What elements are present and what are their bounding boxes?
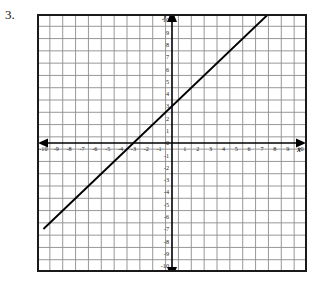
x-tick-label: 7	[260, 145, 263, 152]
y-tick-label: -7	[164, 225, 169, 232]
y-tick-label: -6	[164, 213, 169, 220]
x-tick-label: -6	[92, 145, 97, 152]
x-tick-label: -1	[157, 145, 162, 152]
y-tick-label: 1	[166, 127, 169, 134]
y-tick-label: -8	[164, 238, 169, 245]
x-tick-label: 4	[222, 145, 225, 152]
y-tick-label: -4	[164, 188, 169, 195]
x-tick-label: 8	[273, 145, 276, 152]
y-tick-label: -9	[164, 250, 169, 257]
y-tick-label: 2	[166, 115, 169, 122]
y-tick-label: -3	[164, 176, 169, 183]
y-tick-label: -10	[161, 262, 169, 269]
x-tick-label: 6	[248, 145, 251, 152]
x-tick-label: -5	[105, 145, 110, 152]
x-tick-label: -2	[144, 145, 149, 152]
coordinate-grid: -10-9-8-7-6-5-4-3-2-112345678910 1098765…	[37, 14, 307, 272]
graph-figure: 3. -10-9-8-7-6-5-4-3-2-112345678910 1098…	[0, 0, 325, 288]
y-tick-label: 9	[166, 29, 169, 36]
y-tick-label: 0	[166, 139, 169, 146]
x-tick-label: -9	[54, 145, 59, 152]
problem-number: 3.	[5, 8, 15, 21]
y-tick-label: -5	[164, 201, 169, 208]
x-tick-label: 3	[209, 145, 212, 152]
x-tick-label: 1	[183, 145, 186, 152]
x-tick-label: 5	[235, 145, 238, 152]
x-tick-label: -4	[118, 145, 123, 152]
y-tick-label: 5	[166, 78, 169, 85]
x-tick-label: -10	[39, 145, 47, 152]
y-tick-label: 6	[166, 66, 169, 73]
x-tick-label: 9	[286, 145, 289, 152]
x-tick-label: -8	[67, 145, 72, 152]
y-tick-label: 8	[166, 41, 169, 48]
y-tick-label: -2	[164, 164, 169, 171]
x-axis-label: x	[296, 144, 301, 154]
x-tick-label: -7	[79, 145, 84, 152]
x-tick-label: 2	[196, 145, 199, 152]
y-tick-label: 7	[166, 53, 169, 60]
y-tick-label: 4	[166, 90, 169, 97]
y-tick-label: -1	[164, 152, 169, 159]
graph-svg: -10-9-8-7-6-5-4-3-2-112345678910 1098765…	[37, 14, 307, 272]
